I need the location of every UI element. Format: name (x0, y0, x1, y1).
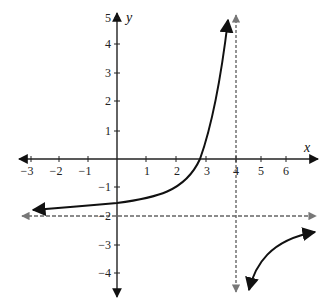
x-tick-label: −3 (21, 164, 34, 178)
x-tick-labels: −3 −2 −1 1 2 3 4 5 6 (21, 164, 289, 178)
x-tick-label: 6 (283, 164, 289, 178)
x-tick-label: 1 (144, 164, 150, 178)
y-tick-label: −1 (98, 180, 111, 194)
curve-left-branch (33, 20, 228, 210)
x-tick-label: −1 (79, 164, 92, 178)
x-tick-label: 4 (233, 164, 239, 178)
curve-right-branch (249, 232, 315, 290)
y-tick-label: −3 (98, 238, 111, 252)
x-axis-label: x (303, 140, 311, 155)
function-graph: −3 −2 −1 1 2 3 4 5 6 5 4 3 2 1 −1 −2 −3 … (0, 0, 331, 306)
y-axis-label: y (124, 10, 133, 25)
y-tick-label: 2 (105, 94, 111, 108)
y-tick-label: 1 (105, 124, 111, 138)
y-tick-label: −4 (98, 266, 111, 280)
y-tick-label: −2 (98, 209, 111, 223)
y-tick-label: 5 (105, 11, 111, 25)
x-tick-label: −2 (50, 164, 63, 178)
y-tick-label: 3 (105, 66, 111, 80)
x-tick-label: 5 (258, 164, 264, 178)
y-tick-labels: 5 4 3 2 1 −1 −2 −3 −4 (98, 11, 111, 280)
x-tick-label: 2 (174, 164, 180, 178)
x-tick-label: 3 (204, 164, 210, 178)
y-tick-label: 4 (105, 37, 111, 51)
